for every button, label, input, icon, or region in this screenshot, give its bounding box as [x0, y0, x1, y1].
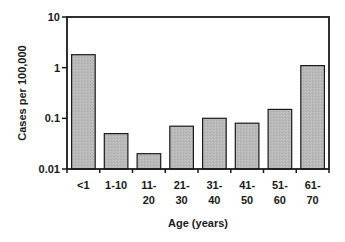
bar-21-30 [170, 126, 194, 169]
x-tick-label: <1 [77, 179, 90, 191]
bar-61-70 [301, 66, 325, 169]
x-axis-title: Age (years) [168, 217, 228, 229]
y-tick-label: 10 [48, 11, 60, 23]
y-tick-label: 0.1 [45, 112, 60, 124]
y-axis: 0.010.1110 [39, 11, 67, 175]
bar-41-50 [235, 123, 259, 169]
x-tick-label: 11-20 [141, 179, 157, 206]
x-tick-label: 21-30 [174, 179, 190, 206]
x-axis: <11-1011-2021-3031-4041-5051-6061-70 [67, 169, 329, 206]
bar-31-40 [203, 118, 227, 169]
bars-group [72, 55, 325, 169]
bar-chart: 0.010.1110 <11-1011-2021-3031-4041-5051-… [0, 0, 345, 242]
bar-11-20 [137, 154, 161, 169]
bar-<1 [72, 55, 96, 169]
y-tick-label: 0.01 [39, 163, 60, 175]
x-tick-label: 31-40 [206, 179, 222, 206]
x-tick-label: 61-70 [305, 179, 321, 206]
bar-1-10 [104, 134, 128, 169]
y-tick-label: 1 [54, 62, 60, 74]
bar-51-60 [268, 109, 292, 169]
y-axis-title: Cases per 100,000 [16, 45, 28, 140]
x-tick-label: 1-10 [105, 179, 127, 191]
x-tick-label: 41-50 [239, 179, 255, 206]
x-tick-label: 51-60 [272, 179, 288, 206]
